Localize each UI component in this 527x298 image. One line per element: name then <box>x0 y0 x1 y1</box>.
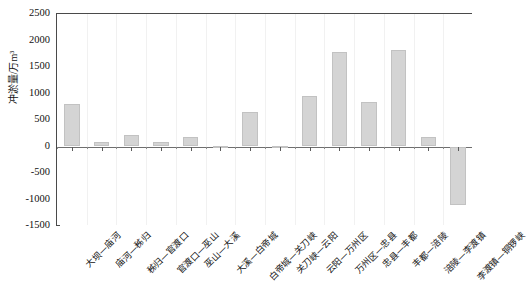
x-axis-tick <box>369 147 370 151</box>
y-axis-tick-label: -1500 <box>4 220 50 230</box>
x-axis-label-11: 丰都—涪陵 <box>409 229 450 270</box>
x-axis-tick <box>428 147 429 151</box>
bar-9 <box>332 52 347 147</box>
x-axis-minor-tick <box>414 147 415 150</box>
x-axis-tick <box>220 147 221 151</box>
x-axis-label-12: 涪陵—李渡镇 <box>441 229 488 276</box>
x-axis-label-1: 庙河—秭归 <box>112 229 153 270</box>
y-axis-tick-mark <box>56 225 60 226</box>
x-axis-tick <box>458 147 459 151</box>
bar-11 <box>391 50 406 147</box>
x-axis-tick <box>339 147 340 151</box>
x-axis-minor-tick <box>295 147 296 150</box>
plot-separator <box>146 14 147 225</box>
x-axis-minor-tick <box>57 147 58 150</box>
plot-separator <box>295 14 296 225</box>
bar-0 <box>64 104 79 146</box>
x-axis-tick <box>191 147 192 151</box>
plot-area <box>56 13 472 225</box>
bar-13 <box>450 147 465 205</box>
x-axis-label-0: 大坝—庙河 <box>82 229 123 270</box>
x-axis-label-4: 巫山—大溪 <box>201 229 242 270</box>
bar-2 <box>124 135 139 146</box>
x-axis-label-10: 忠县—丰都 <box>379 229 420 270</box>
x-axis-minor-tick <box>87 147 88 150</box>
bar-6 <box>242 112 257 147</box>
x-axis-minor-tick <box>443 147 444 150</box>
x-axis-label-13: 李渡镇—铜锣峡 <box>474 229 527 283</box>
x-axis-label-8: 云阳—万州区 <box>322 229 369 276</box>
bar-10 <box>361 102 376 147</box>
bar-4 <box>183 137 198 146</box>
plot-inner <box>57 14 472 225</box>
plot-separator <box>87 14 88 225</box>
x-axis-minor-tick <box>324 147 325 150</box>
y-axis-tick-label: 1000 <box>4 88 50 98</box>
x-axis-label-6: 白帝城—关刀峡 <box>266 229 320 283</box>
y-axis-tick-label: 500 <box>4 114 50 124</box>
plot-separator <box>443 14 444 225</box>
y-axis-tick-label: 1500 <box>4 61 50 71</box>
x-axis-tick <box>131 147 132 151</box>
bar-12 <box>421 137 436 146</box>
x-axis-tick <box>72 147 73 151</box>
x-axis-tick <box>280 147 281 151</box>
x-axis-tick <box>102 147 103 151</box>
bar-8 <box>302 96 317 146</box>
x-axis-label-7: 关刀峡—云阳 <box>293 229 340 276</box>
x-axis-minor-tick <box>206 147 207 150</box>
x-axis-label-9: 万州区—忠县 <box>352 229 399 276</box>
plot-separator <box>206 14 207 225</box>
y-axis-tick-label: -1000 <box>4 194 50 204</box>
x-axis-minor-tick <box>176 147 177 150</box>
plot-separator <box>414 14 415 225</box>
y-axis-tick-label: 2500 <box>4 8 50 18</box>
x-axis-tick <box>250 147 251 151</box>
plot-separator <box>324 14 325 225</box>
x-axis-tick <box>310 147 311 151</box>
plot-separator <box>354 14 355 225</box>
x-axis-minor-tick <box>354 147 355 150</box>
plot-separator <box>235 14 236 225</box>
plot-separator <box>176 14 177 225</box>
x-axis-minor-tick <box>235 147 236 150</box>
plot-separator <box>384 14 385 225</box>
x-axis-minor-tick <box>146 147 147 150</box>
plot-separator <box>116 14 117 225</box>
x-axis-tick <box>399 147 400 151</box>
plot-separator <box>265 14 266 225</box>
y-axis-tick-label: 0 <box>4 141 50 151</box>
x-axis-minor-tick <box>384 147 385 150</box>
x-axis-label-2: 秭归—官渡口 <box>144 229 191 276</box>
x-axis-minor-tick <box>265 147 266 150</box>
x-axis-tick <box>161 147 162 151</box>
x-axis-label-3: 官渡口—巫山 <box>174 229 221 276</box>
y-axis-tick-label: 2000 <box>4 35 50 45</box>
x-axis-label-5: 大溪—白帝城 <box>233 229 280 276</box>
x-axis-minor-tick <box>116 147 117 150</box>
y-axis-tick-label: -500 <box>4 167 50 177</box>
